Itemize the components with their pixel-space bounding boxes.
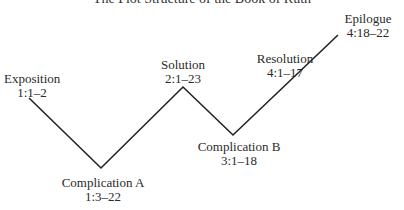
node-complication-b: Complication B 3:1–18 [193, 140, 285, 168]
node-name: Resolution [252, 52, 318, 66]
node-epilogue: Epilogue 4:18–22 [340, 12, 396, 40]
node-ref: 4:1–17 [252, 66, 318, 80]
node-name: Complication B [193, 140, 285, 154]
node-resolution: Resolution 4:1–17 [252, 52, 318, 80]
node-ref: 2:1–23 [156, 72, 210, 86]
node-name: Complication A [56, 176, 150, 190]
node-ref: 4:18–22 [340, 26, 396, 40]
node-complication-a: Complication A 1:3–22 [56, 176, 150, 204]
node-ref: 1:1–2 [4, 86, 60, 100]
node-solution: Solution 2:1–23 [156, 58, 210, 86]
node-ref: 1:3–22 [56, 190, 150, 204]
node-name: Exposition [4, 72, 60, 86]
node-ref: 3:1–18 [193, 154, 285, 168]
node-name: Solution [156, 58, 210, 72]
node-name: Epilogue [340, 12, 396, 26]
node-exposition: Exposition 1:1–2 [4, 72, 60, 100]
